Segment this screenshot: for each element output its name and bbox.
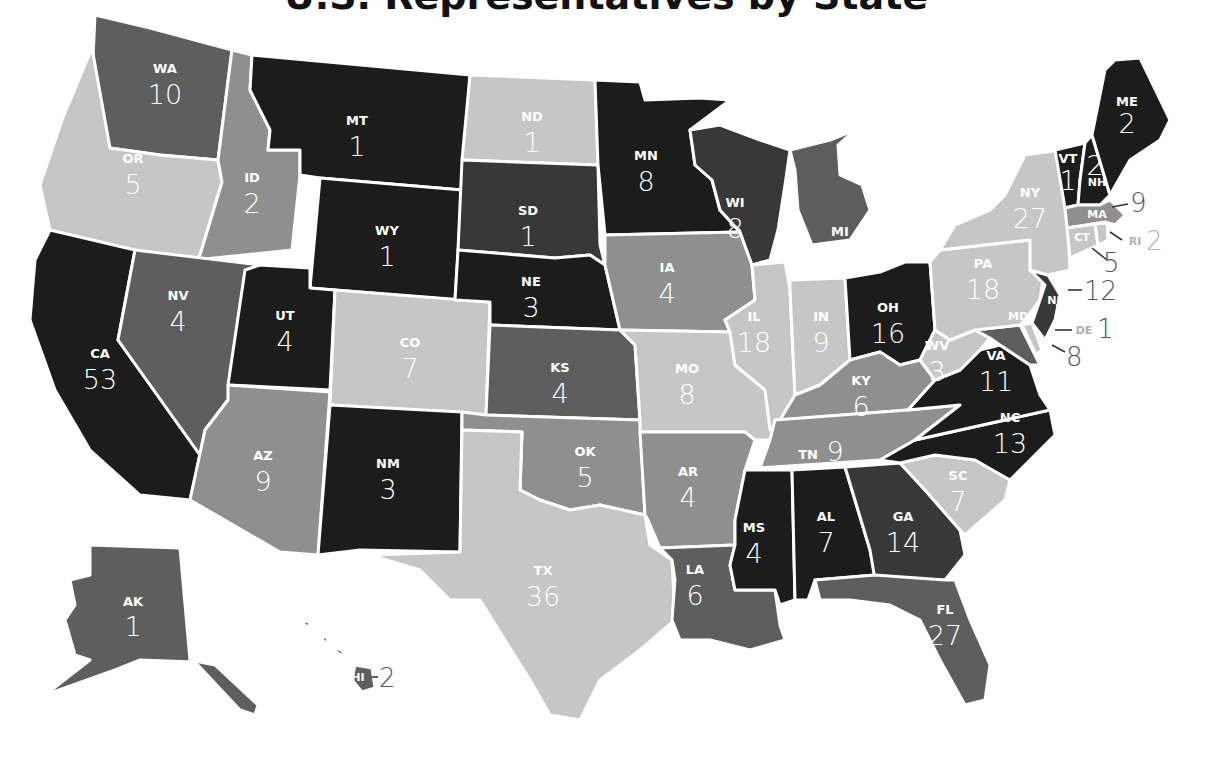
label-OK: OK5 [574, 444, 596, 493]
seat-count: 2 [1086, 150, 1103, 181]
state-WY[interactable] [310, 178, 462, 300]
seat-count: 9 [826, 436, 843, 467]
state-abbr: MA [1087, 208, 1107, 221]
label-KY: KY6 [851, 373, 871, 422]
label-UT: UT4 [275, 308, 295, 357]
label-LA: LA6 [686, 562, 704, 611]
state-MI[interactable] [790, 130, 870, 245]
seat-count: 5 [124, 169, 141, 200]
label-IA: IA4 [658, 260, 675, 309]
seat-count: 2 [379, 663, 396, 693]
label-MO: MO8 [675, 361, 699, 410]
label-AR: AR4 [678, 464, 698, 513]
label-NE: NE3 [521, 274, 541, 323]
seat-count: 1 [348, 131, 365, 162]
state-abbr: IL [747, 309, 760, 324]
label-WI: WI8 [725, 195, 744, 244]
seat-count: 4 [551, 378, 568, 409]
seat-count: 9 [254, 466, 271, 497]
label-ND: ND1 [521, 109, 543, 158]
seat-count: 3 [379, 474, 396, 505]
seat-count: 4 [679, 482, 696, 513]
state-abbr: WA [153, 61, 177, 76]
state-abbr: SC [949, 468, 968, 483]
state-abbr: MI [831, 224, 849, 239]
seat-count: 4 [658, 278, 675, 309]
seat-count: 12 [1084, 276, 1117, 306]
label-AK: AK1 [123, 594, 144, 642]
state-abbr: HI [351, 671, 364, 684]
seat-count: 36 [526, 581, 560, 612]
leader-line [1052, 345, 1065, 352]
state-abbr: VA [986, 348, 1005, 363]
state-AK[interactable] [45, 545, 258, 715]
label-NM: NM3 [376, 456, 400, 505]
seat-count: 4 [276, 326, 293, 357]
state-abbr: NE [521, 274, 541, 289]
seat-count: 1 [124, 611, 141, 642]
us-choropleth-map: WA10 OR5 CA53 ID2 NV4 MT1 WY1 UT4 AZ9 CO… [0, 0, 1212, 768]
state-abbr: MD [1008, 310, 1028, 323]
state-abbr: MO [675, 361, 699, 376]
state-abbr: MN [634, 148, 658, 163]
seat-count: 5 [576, 462, 593, 493]
seat-count: 8 [678, 379, 695, 410]
label-SD: SD1 [518, 203, 538, 252]
seat-count: 8 [1066, 342, 1083, 372]
state-abbr: NM [376, 456, 400, 471]
seat-count: 53 [83, 364, 117, 395]
state-abbr: RI [1129, 235, 1142, 248]
state-abbr: DE [1076, 324, 1093, 337]
label-OR: OR5 [122, 151, 143, 200]
label-MN: MN8 [634, 148, 658, 197]
seat-count: 1 [1097, 314, 1114, 344]
state-abbr: AK [123, 594, 144, 609]
seat-count: 7 [817, 527, 834, 558]
state-RI[interactable] [1095, 223, 1108, 245]
state-abbr: NJ [1047, 294, 1060, 307]
state-abbr: IA [660, 260, 675, 275]
label-VT: VT1 [1059, 151, 1078, 196]
seat-count: 16 [871, 318, 905, 349]
state-abbr: FL [936, 602, 953, 617]
seat-count: 5 [1103, 248, 1120, 278]
state-abbr: AZ [253, 448, 273, 463]
label-AL: AL7 [817, 509, 835, 558]
label-RI: RI2 [1129, 226, 1163, 256]
state-abbr: NC [1000, 410, 1020, 425]
state-abbr: KY [851, 373, 871, 388]
state-abbr: ID [244, 170, 260, 185]
seat-count: 3 [928, 356, 945, 387]
seat-count: 7 [401, 353, 418, 384]
state-abbr: NY [1020, 185, 1041, 200]
state-abbr: MT [346, 113, 368, 128]
state-FL[interactable] [815, 575, 990, 705]
seat-count: 6 [852, 391, 869, 422]
state-abbr: GA [893, 509, 914, 524]
state-abbr: SD [518, 203, 538, 218]
state-abbr: VT [1059, 151, 1078, 166]
label-AZ: AZ9 [253, 448, 273, 497]
label-DE: DE1 [1076, 314, 1114, 344]
state-abbr: OR [122, 151, 143, 166]
state-abbr: WY [375, 223, 399, 238]
seat-count: 2 [1118, 108, 1135, 139]
seat-count: 27 [928, 620, 962, 651]
seat-count: 18 [966, 274, 1000, 305]
state-abbr: CT [1074, 231, 1090, 244]
seat-count: 7 [949, 486, 966, 517]
label-MT: MT1 [346, 113, 368, 162]
seat-count: 4 [745, 538, 762, 569]
seat-count: 1 [378, 241, 395, 272]
state-abbr: NV [168, 288, 189, 303]
seat-count: 4 [169, 306, 186, 337]
seat-count: 8 [637, 166, 654, 197]
state-abbr: UT [275, 308, 295, 323]
seat-count: 9 [812, 327, 829, 358]
state-abbr: OK [574, 444, 596, 459]
seat-count: 14 [823, 242, 857, 273]
seat-count: 13 [993, 428, 1027, 459]
state-abbr: LA [686, 562, 704, 577]
label-WV: WV3 [925, 338, 949, 387]
state-abbr: PA [974, 256, 992, 271]
